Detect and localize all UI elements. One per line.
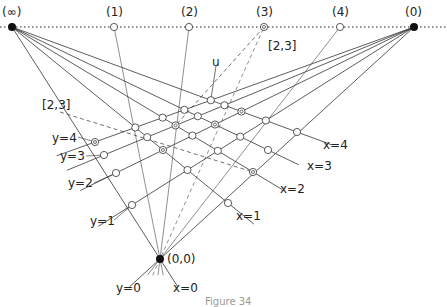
- label-3: (3): [256, 6, 273, 18]
- label-y3: y=3: [60, 150, 85, 162]
- label-zero: (0): [405, 6, 422, 18]
- label-x0: x=0: [173, 282, 198, 294]
- label-y1: y=1: [90, 215, 115, 227]
- figure-caption: Figure 34: [205, 296, 251, 307]
- label-x1: x=1: [236, 210, 261, 222]
- label-bracket-top: [2,3]: [268, 40, 296, 52]
- label-bracket-left: [2,3]: [42, 99, 70, 111]
- label-4: (4): [332, 6, 349, 18]
- label-y4: y=4: [52, 132, 77, 144]
- label-x3: x=3: [307, 160, 332, 172]
- label-y0: y=0: [116, 282, 141, 294]
- label-2: (2): [181, 6, 198, 18]
- label-origin: (0,0): [167, 253, 195, 265]
- label-x2: x=2: [280, 183, 305, 195]
- label-u: u: [212, 56, 220, 68]
- label-y2: y=2: [68, 177, 93, 189]
- label-infinity: (∞): [2, 6, 21, 18]
- label-1: (1): [106, 6, 123, 18]
- label-x4: x=4: [323, 139, 348, 151]
